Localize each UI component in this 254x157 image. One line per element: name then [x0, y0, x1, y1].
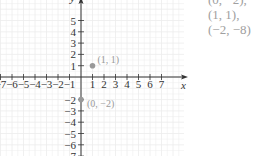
x-tick-label: −2 — [52, 78, 64, 90]
x-tick-label: 4 — [124, 78, 130, 90]
x-tick-label: −4 — [29, 78, 41, 90]
y-axis-label: y — [69, 0, 75, 4]
y-tick-label: 2 — [71, 48, 77, 60]
x-tick-label: 2 — [101, 78, 107, 90]
x-axis-label: x — [180, 79, 186, 91]
x-tick-label: −6 — [6, 78, 18, 90]
data-point-label: (1, 1) — [98, 54, 120, 66]
x-tick-label: 6 — [147, 78, 153, 90]
data-point — [78, 97, 84, 103]
x-tick-label: −3 — [41, 78, 53, 90]
y-tick-label: −4 — [64, 116, 76, 128]
y-tick-label: 1 — [71, 60, 77, 72]
side-text-line-2: (1, 1), — [208, 7, 239, 22]
data-point — [90, 63, 96, 69]
y-tick-label: −5 — [64, 128, 76, 140]
axis-ticks: −7−6−5−4−3−2−1123456754321−2−3−4−5−6−7 — [0, 15, 165, 157]
x-tick-label: 3 — [113, 78, 119, 90]
x-tick-label: −5 — [18, 78, 30, 90]
y-tick-label: −3 — [64, 105, 76, 117]
x-tick-label: 5 — [136, 78, 142, 90]
side-text-line-3: (−2, −8) — [208, 22, 251, 37]
side-text-line-1: (0, −2), — [208, 0, 247, 7]
y-tick-label: −6 — [64, 139, 76, 151]
x-tick-label: 7 — [159, 78, 165, 90]
y-tick-label: 3 — [71, 37, 77, 49]
y-tick-label: −7 — [64, 150, 76, 156]
x-tick-label: −1 — [64, 78, 76, 90]
data-point-label: (0, −2) — [87, 98, 114, 110]
y-tick-label: 5 — [71, 15, 77, 27]
y-tick-label: −2 — [64, 94, 76, 106]
x-tick-label: 1 — [90, 78, 96, 90]
y-tick-label: 4 — [71, 26, 77, 38]
